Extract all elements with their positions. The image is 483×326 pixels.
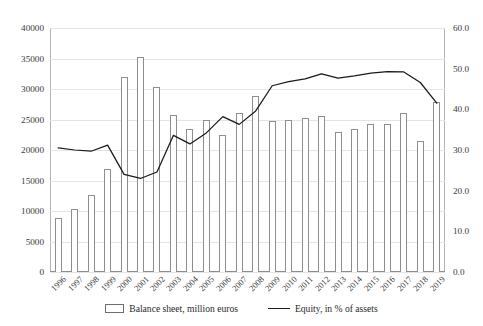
category-axis-tick-label: 1996 bbox=[49, 274, 68, 293]
category-axis-tick-label: 1998 bbox=[82, 274, 101, 293]
left-axis-tick-label: 5000 bbox=[26, 237, 44, 247]
category-axis-tick-label: 2018 bbox=[411, 274, 430, 293]
left-axis-tick-label: 35000 bbox=[21, 54, 44, 64]
chart-legend: Balance sheet, million euros Equity, in … bbox=[0, 303, 483, 314]
legend-item-balance-sheet: Balance sheet, million euros bbox=[105, 303, 238, 314]
bar-swatch-icon bbox=[105, 304, 124, 313]
category-axis-tick-label: 2008 bbox=[247, 274, 266, 293]
legend-label-equity: Equity, in % of assets bbox=[295, 303, 378, 314]
left-axis-tick-label: 20000 bbox=[21, 145, 44, 155]
left-axis-tick-label: 25000 bbox=[21, 115, 44, 125]
category-axis-tick-label: 2014 bbox=[345, 274, 364, 293]
category-axis-tick-label: 2006 bbox=[214, 274, 233, 293]
left-axis-tick-label: 0 bbox=[39, 267, 44, 277]
legend-item-equity: Equity, in % of assets bbox=[268, 303, 378, 314]
right-axis-tick-label: 50.0 bbox=[453, 64, 469, 74]
category-axis-tick-label: 2011 bbox=[296, 274, 315, 293]
category-axis-tick-label: 1997 bbox=[66, 274, 85, 293]
right-axis-tick-label: 30.0 bbox=[453, 145, 469, 155]
line-swatch-icon bbox=[268, 308, 290, 309]
right-axis-tick-label: 10.0 bbox=[453, 226, 469, 236]
gridline bbox=[50, 272, 445, 273]
combo-chart: 0500010000150002000025000300003500040000… bbox=[0, 0, 483, 326]
category-axis-tick-label: 2002 bbox=[148, 274, 167, 293]
right-axis-tick-label: 20.0 bbox=[453, 186, 469, 196]
category-axis-tick-label: 2015 bbox=[362, 274, 381, 293]
category-axis-tick-label: 2004 bbox=[181, 274, 200, 293]
equity-line-path bbox=[58, 72, 437, 179]
category-axis-tick-label: 2009 bbox=[263, 274, 282, 293]
category-axis-tick-label: 2013 bbox=[329, 274, 348, 293]
right-axis-tick-label: 40.0 bbox=[453, 104, 469, 114]
category-axis-tick-label: 2001 bbox=[131, 274, 150, 293]
category-axis-tick-label: 2000 bbox=[115, 274, 134, 293]
category-axis-tick-label: 2010 bbox=[279, 274, 298, 293]
left-axis-tick-label: 15000 bbox=[21, 176, 44, 186]
legend-label-balance-sheet: Balance sheet, million euros bbox=[129, 303, 238, 314]
category-axis-tick-label: 2003 bbox=[164, 274, 183, 293]
category-axis-tick-label: 2012 bbox=[312, 274, 331, 293]
category-axis-tick-label: 1999 bbox=[98, 274, 117, 293]
category-axis-tick-label: 2007 bbox=[230, 274, 249, 293]
right-axis-tick-label: 0.0 bbox=[453, 267, 464, 277]
left-axis-tick-label: 30000 bbox=[21, 84, 44, 94]
plot-area: 0500010000150002000025000300003500040000… bbox=[50, 28, 445, 272]
category-axis-tick-label: 2019 bbox=[428, 274, 447, 293]
category-axis-tick-label: 2005 bbox=[197, 274, 216, 293]
right-axis-tick-label: 60.0 bbox=[453, 23, 469, 33]
line-series bbox=[50, 28, 445, 272]
category-axis-tick-label: 2016 bbox=[378, 274, 397, 293]
left-axis-tick-label: 40000 bbox=[21, 23, 44, 33]
category-axis-tick-label: 2017 bbox=[395, 274, 414, 293]
left-axis-tick-label: 10000 bbox=[21, 206, 44, 216]
